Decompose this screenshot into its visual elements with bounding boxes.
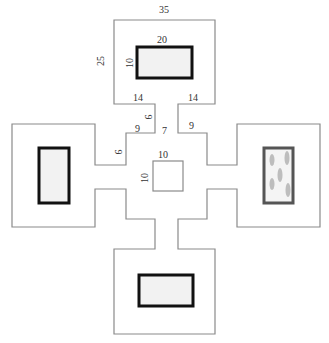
center-width-label: 10 [158, 150, 168, 160]
step-left-label: 9 [135, 124, 140, 134]
top-room-width-label: 35 [159, 5, 169, 15]
left-window [39, 148, 69, 203]
bottom-window [139, 275, 193, 306]
gap-label: 7 [162, 126, 167, 136]
floor-plan-diagram [0, 0, 329, 343]
side-step-label: 9 [113, 150, 123, 155]
center-height-label: 10 [140, 173, 150, 183]
shoulder-left-label: 14 [133, 93, 143, 103]
neck-label: 9 [143, 115, 153, 120]
top-room-height-label: 25 [96, 56, 106, 66]
window-width-label: 20 [157, 35, 167, 45]
window-height-label: 10 [125, 58, 135, 68]
center-square [153, 161, 183, 191]
step-right-label: 9 [189, 121, 194, 131]
shoulder-right-label: 14 [188, 93, 198, 103]
top-window [137, 47, 192, 78]
